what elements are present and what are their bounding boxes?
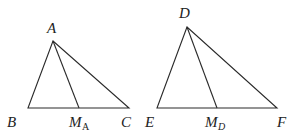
- label-vertex-a: A: [46, 20, 57, 36]
- label-midpoint-md-main: M: [204, 114, 219, 130]
- label-vertex-b: B: [7, 114, 16, 130]
- triangle-abc-outline: [28, 41, 129, 108]
- label-midpoint-md-subscript: D: [217, 121, 226, 132]
- label-vertex-e: E: [144, 114, 154, 130]
- triangle-def-outline: [157, 27, 277, 108]
- label-vertex-c: C: [121, 114, 132, 130]
- label-midpoint-ma-subscript: A: [82, 121, 90, 132]
- median-d-md: [187, 27, 217, 108]
- triangle-abc: A B C M A: [7, 20, 132, 132]
- geometry-diagram: A B C M A D E F M D: [0, 0, 299, 139]
- label-midpoint-ma-main: M: [68, 114, 83, 130]
- label-vertex-d: D: [178, 5, 190, 21]
- label-vertex-f: F: [276, 114, 287, 130]
- median-a-ma: [53, 41, 79, 108]
- triangle-def: D E F M D: [144, 5, 287, 132]
